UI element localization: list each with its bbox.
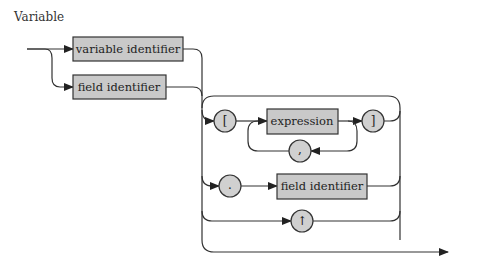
svg-text:[: [ [223, 114, 228, 128]
circle-open-bracket: [ [214, 110, 236, 132]
circle-up-arrow: ↑ [291, 210, 313, 232]
branch-path-field [27, 49, 73, 87]
box-label: field identifier [281, 179, 364, 193]
circle-dot: . [219, 175, 241, 197]
box-variable-identifier: variable identifier [73, 37, 183, 61]
box-label: variable identifier [75, 42, 181, 56]
svg-text:↑: ↑ [297, 214, 307, 228]
box-label: field identifier [78, 80, 161, 94]
svg-text:,: , [298, 142, 302, 156]
syntax-diagram: variable identifier field identifier exp… [0, 0, 493, 271]
circle-comma: , [289, 140, 311, 162]
svg-text:]: ] [371, 114, 376, 128]
box-field-identifier-2: field identifier [277, 174, 367, 199]
box-expression: expression [267, 109, 338, 134]
box-label: expression [271, 114, 334, 128]
circle-close-bracket: ] [362, 110, 384, 132]
svg-text:.: . [228, 178, 232, 192]
box-field-identifier: field identifier [73, 75, 166, 99]
